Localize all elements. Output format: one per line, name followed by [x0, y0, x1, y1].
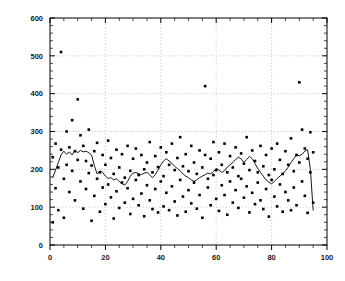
grid-lines [50, 18, 327, 245]
scatter-point [176, 214, 179, 217]
scatter-point [265, 188, 268, 191]
scatter-point [251, 149, 254, 152]
x-tick-label: 100 [321, 253, 334, 262]
x-tick-label: 0 [48, 253, 52, 262]
scatter-point [226, 213, 229, 216]
scatter-point [306, 212, 309, 215]
scatter-point [104, 203, 107, 206]
scatter-point [68, 191, 71, 194]
scatter-point [132, 198, 135, 201]
scatter-point [254, 203, 257, 206]
scatter-point [179, 179, 182, 182]
scatter-point [85, 188, 88, 191]
scatter-point [118, 207, 121, 210]
x-tick-label: 80 [267, 253, 275, 262]
scatter-point [234, 146, 237, 149]
scatter-point [184, 153, 187, 156]
scatter-point [312, 201, 315, 204]
scatter-point [196, 207, 199, 210]
scatter-point [71, 170, 74, 173]
scatter-point [107, 183, 110, 186]
scatter-point [256, 181, 259, 184]
scatter-point [179, 136, 182, 139]
scatter-point [71, 119, 74, 122]
scatter-point [96, 142, 99, 145]
scatter-plot-figure: 020406080100 0100200300400500600 [0, 0, 345, 281]
scatter-point [287, 163, 290, 166]
scatter-point [262, 208, 265, 211]
scatter-point [85, 160, 88, 163]
y-tick-label: 100 [30, 203, 43, 212]
y-axis-tick-labels: 0100200300400500600 [30, 14, 43, 250]
scatter-point [204, 85, 207, 88]
scatter-point [284, 191, 287, 194]
scatter-point [218, 210, 221, 213]
scatter-point [226, 171, 229, 174]
plot-canvas: 020406080100 0100200300400500600 [0, 0, 345, 281]
scatter-point [229, 180, 232, 183]
scatter-point [237, 207, 240, 210]
scatter-point [245, 185, 248, 188]
scatter-point [270, 147, 273, 150]
scatter-point [234, 189, 237, 192]
scatter-point [160, 146, 163, 149]
scatter-point [60, 51, 63, 54]
scatter-point [187, 170, 190, 173]
scatter-point [99, 210, 102, 213]
scatter-point [63, 177, 66, 180]
x-axis-ticks [50, 18, 327, 250]
scatter-point [232, 201, 235, 204]
scatter-point [74, 199, 77, 202]
scatter-point [93, 195, 96, 198]
scatter-point [268, 215, 271, 218]
scatter-point [232, 166, 235, 169]
scatter-point [292, 186, 295, 189]
scatter-point [201, 216, 204, 219]
scatter-point [279, 183, 282, 186]
scatter-point [270, 179, 273, 182]
y-tick-label: 0 [39, 241, 43, 250]
scatter-point [123, 201, 126, 204]
y-tick-label: 500 [30, 52, 43, 61]
scatter-point [54, 187, 57, 190]
scatter-point [284, 150, 287, 153]
scatter-point [162, 205, 165, 208]
scatter-point [254, 160, 257, 163]
scatter-point [173, 200, 176, 203]
scatter-point [248, 211, 251, 214]
scatter-point [295, 154, 298, 157]
scatter-point [96, 177, 99, 180]
scatter-point [110, 157, 113, 160]
scatter-point [121, 153, 124, 156]
scatter-point [146, 161, 149, 164]
scatter-point [79, 180, 82, 183]
scatter-point [184, 210, 187, 213]
scatter-point [57, 209, 60, 212]
scatter-point [182, 165, 185, 168]
scatter-point [157, 166, 160, 169]
scatter-point [173, 169, 176, 172]
scatter-point [279, 159, 282, 162]
scatter-point [290, 137, 293, 140]
scatter-point [140, 192, 143, 195]
scatter-point [82, 145, 85, 148]
scatter-point [301, 128, 304, 131]
scatter-point [265, 154, 268, 157]
y-tick-label: 300 [30, 127, 43, 136]
scatter-point [287, 199, 290, 202]
scatter-point [154, 188, 157, 191]
scatter-point [168, 209, 171, 212]
scatter-point [115, 148, 118, 151]
scatter-point [135, 179, 138, 182]
scatter-point [207, 177, 210, 180]
scatter-point [187, 189, 190, 192]
scatter-point [193, 161, 196, 164]
scatter-point [143, 215, 146, 218]
scatter-point [74, 150, 77, 153]
scatter-point [148, 141, 151, 144]
scatter-point [129, 213, 132, 216]
scatter-point [171, 185, 174, 188]
scatter-point [118, 166, 121, 169]
scatter-point [65, 130, 68, 133]
scatter-point [162, 175, 165, 178]
